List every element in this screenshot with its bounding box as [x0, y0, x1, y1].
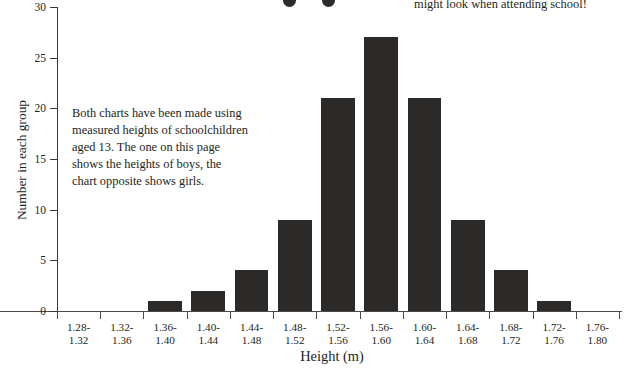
x-tick-label: 1.76-1.80	[572, 321, 622, 346]
bar	[278, 220, 312, 311]
bar	[148, 301, 182, 311]
x-tick	[489, 312, 490, 319]
x-tick	[619, 312, 620, 319]
bar	[364, 37, 398, 311]
bar	[408, 98, 442, 311]
x-axis-line	[0, 311, 622, 312]
x-tick-label-line: 1.80	[572, 334, 622, 347]
x-tick	[576, 312, 577, 319]
bar	[235, 270, 269, 311]
bar-group	[0, 0, 626, 311]
x-tick	[100, 312, 101, 319]
bar	[537, 301, 571, 311]
x-tick	[187, 312, 188, 319]
x-axis-title: Height (m)	[0, 348, 626, 365]
x-tick	[273, 312, 274, 319]
bar	[321, 98, 355, 311]
y-tick	[50, 311, 57, 312]
x-tick	[446, 312, 447, 319]
x-tick	[403, 312, 404, 319]
x-tick	[57, 312, 58, 319]
x-tick	[533, 312, 534, 319]
histogram-page: might look when attending school! Both c…	[0, 0, 626, 369]
x-tick	[360, 312, 361, 319]
bar	[451, 220, 485, 311]
x-tick	[230, 312, 231, 319]
x-tick	[316, 312, 317, 319]
x-axis-title-text: Height (m)	[300, 348, 364, 365]
x-tick-label-line: 1.76-	[572, 321, 622, 334]
x-tick	[143, 312, 144, 319]
bar	[494, 270, 528, 311]
bar	[191, 291, 225, 311]
